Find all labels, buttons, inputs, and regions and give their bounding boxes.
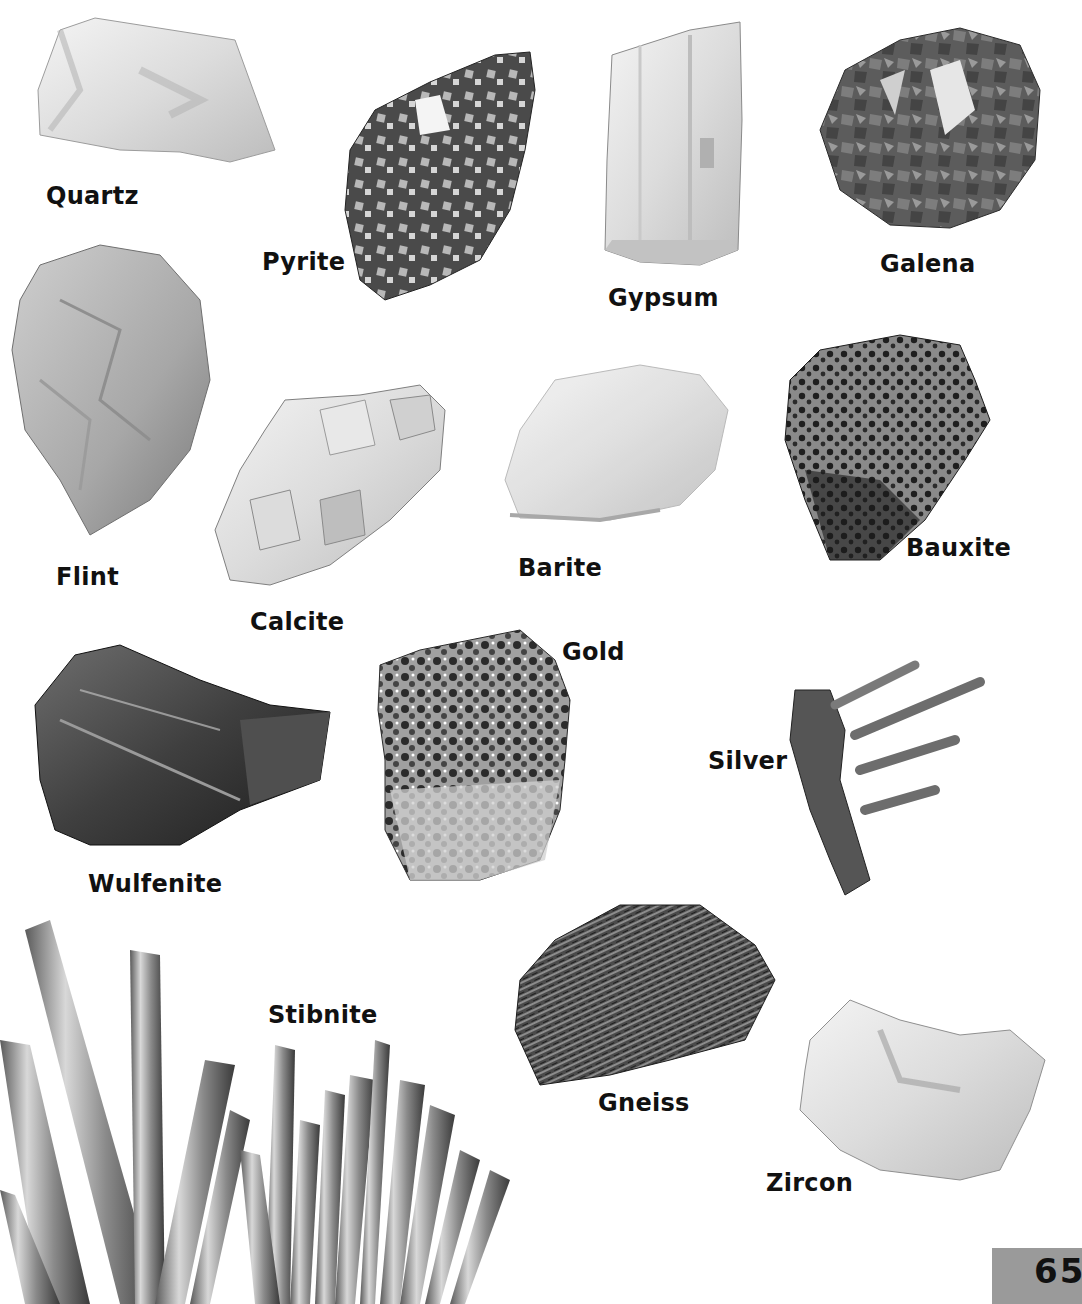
label-flint: Flint [56, 565, 119, 589]
bauxite-illustration [785, 335, 990, 560]
gneiss-illustration [515, 905, 775, 1085]
book-page: Quartz Pyrite Gypsum Galena Flint Calcit… [0, 0, 1082, 1304]
zircon-illustration [800, 1000, 1045, 1180]
barite-illustration [505, 365, 728, 520]
galena-illustration [820, 28, 1040, 228]
label-calcite: Calcite [250, 610, 344, 634]
gypsum-illustration [605, 22, 742, 265]
wulfenite-illustration [35, 645, 330, 845]
label-silver: Silver [708, 749, 787, 773]
stibnite-illustration [0, 920, 510, 1304]
label-zircon: Zircon [766, 1171, 853, 1195]
silver-illustration [790, 665, 980, 895]
label-gold: Gold [562, 640, 625, 664]
label-pyrite: Pyrite [262, 250, 345, 274]
page-number: 65 [1034, 1254, 1082, 1288]
label-stibnite: Stibnite [268, 1003, 378, 1027]
calcite-illustration [215, 385, 445, 585]
pyrite-illustration [345, 52, 535, 300]
label-quartz: Quartz [46, 184, 139, 208]
label-gypsum: Gypsum [608, 286, 719, 310]
label-galena: Galena [880, 252, 975, 276]
gold-illustration [378, 630, 570, 880]
flint-illustration [12, 245, 210, 535]
label-wulfenite: Wulfenite [88, 872, 222, 896]
quartz-illustration [38, 18, 275, 162]
label-gneiss: Gneiss [598, 1091, 690, 1115]
mineral-illustrations [0, 0, 1082, 1304]
label-barite: Barite [518, 556, 602, 580]
label-bauxite: Bauxite [906, 536, 1011, 560]
